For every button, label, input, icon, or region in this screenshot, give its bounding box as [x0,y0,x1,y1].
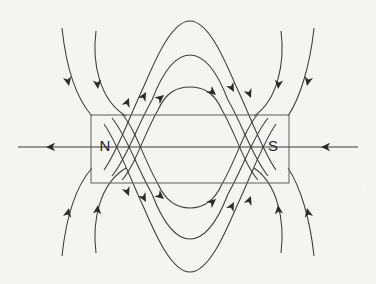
closed-field-loop-below-3 [122,114,258,208]
open-field-line-group-top-right [254,28,314,116]
open-field-line-top-right-outer [288,28,314,116]
arrowhead-loop-below-3-right [206,196,218,208]
arrowhead-loop-above-1-right [244,88,255,99]
north-pole-label: N [100,137,111,154]
arrowhead-loop-above-3-right [206,86,218,98]
open-field-line-group-top-left [62,28,126,116]
arrowhead-loop-below-1-left [122,186,133,197]
arrowhead-group-loops-above [122,82,255,108]
closed-field-loop-above-3 [122,87,258,180]
open-field-line-top-right-inner [254,31,282,116]
open-field-line-group-bottom-right [254,168,314,256]
south-pole-label: S [268,137,278,154]
magnetic-field-diagram: N S [0,0,376,284]
arrowhead-open-bottom-right-inner [274,205,283,215]
open-field-line-top-left-outer [62,28,92,116]
arrowhead-open-bottom-right-outer [303,207,313,218]
arrowhead-group-top-left-open [63,76,102,89]
open-field-line-bottom-right-outer [288,168,314,256]
arrowhead-group-top-right-open [274,76,313,89]
open-field-line-top-left-inner [95,31,126,116]
arrowhead-loop-above-1-left [122,96,133,107]
arrowhead-open-bottom-left-outer [63,207,73,218]
closed-field-loop-group-above [104,21,276,180]
closed-field-loop-group-below [104,114,276,272]
arrowhead-loop-below-1-right [244,194,255,205]
field-line-canvas: N S [0,0,376,284]
arrowhead-loop-below-2-right [226,200,238,212]
arrowhead-loop-above-2-right [226,82,238,94]
